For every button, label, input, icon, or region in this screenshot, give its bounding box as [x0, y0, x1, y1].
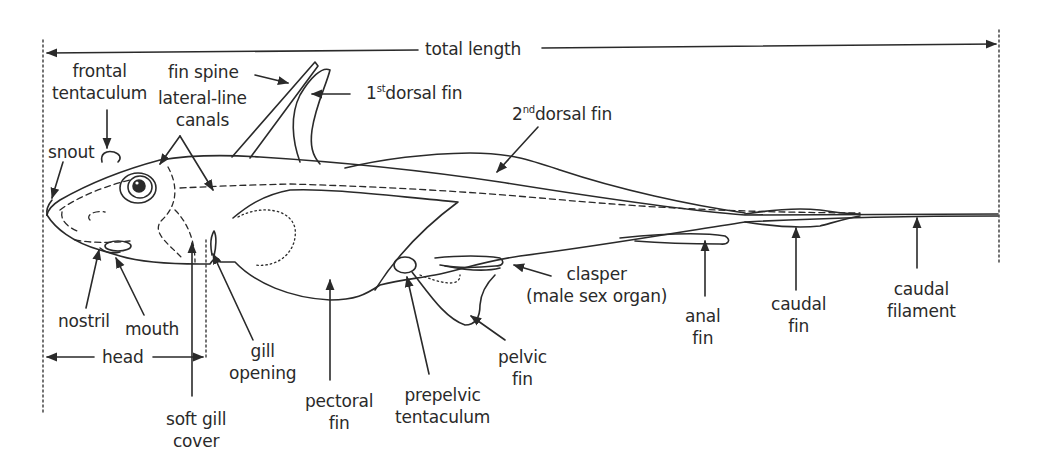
label-line: gill: [229, 340, 296, 362]
label-line: frontal: [52, 60, 147, 82]
fish-illustration: [0, 0, 1043, 470]
label-line: tentaculum: [52, 82, 147, 104]
ordinal-number: 1: [366, 83, 377, 103]
lateral-line-canals-label: lateral-line canals: [158, 87, 247, 131]
fin-spine-label: fin spine: [168, 61, 239, 83]
head-label: head: [102, 346, 144, 368]
ordinal-suffix: nd: [523, 104, 535, 115]
label-line: fin: [305, 412, 373, 434]
label-text: dorsal fin: [535, 104, 612, 124]
second-dorsal-fin-label: 2nddorsal fin: [512, 103, 612, 125]
pelvic-fin-label: pelvic fin: [498, 346, 547, 390]
label-line: opening: [229, 362, 296, 384]
ordinal-number: 2: [512, 104, 523, 124]
first-dorsal-fin-outline: [293, 69, 330, 164]
label-line: pelvic: [498, 346, 547, 368]
label-line: (male sex organ): [526, 285, 667, 307]
label-line: fin: [685, 327, 721, 349]
mouth-label: mouth: [125, 318, 179, 340]
clasper-label: clasper (male sex organ): [526, 263, 667, 307]
label-line: fin: [498, 368, 547, 390]
chimaera-anatomy-diagram: total length frontal tentaculum fin spin…: [0, 0, 1043, 470]
label-text: dorsal fin: [385, 83, 462, 103]
label-line: clasper: [526, 263, 667, 285]
frontal-tentaculum-label: frontal tentaculum: [52, 60, 147, 104]
prepelvic-tentaculum-label: prepelvic tentaculum: [395, 384, 490, 428]
label-line: soft gill: [166, 408, 226, 430]
snout-label: snout: [48, 141, 94, 163]
body-ventral-outline: [47, 215, 998, 300]
prepelvic-tentaculum-shape: [394, 257, 416, 273]
label-line: tentaculum: [395, 406, 490, 428]
label-line: pectoral: [305, 390, 373, 412]
anal-fin-label: anal fin: [685, 305, 721, 349]
label-line: caudal: [771, 293, 826, 315]
label-line: filament: [887, 300, 956, 322]
pectoral-fin-outline: [233, 190, 458, 290]
second-dorsal-fin-outline: [345, 153, 745, 213]
label-line: prepelvic: [395, 384, 490, 406]
caudal-fin-label: caudal fin: [771, 293, 826, 337]
label-line: caudal: [887, 278, 956, 300]
pectoral-fin-label: pectoral fin: [305, 390, 373, 434]
body-dorsal-outline: [47, 156, 998, 215]
gill-opening-label: gill opening: [229, 340, 296, 384]
label-line: fin: [771, 315, 826, 337]
pelvic-fin-outline: [412, 272, 495, 325]
first-dorsal-fin-label: 1stdorsal fin: [366, 82, 462, 104]
caudal-filament-label: caudal filament: [887, 278, 956, 322]
nostril-label: nostril: [58, 310, 110, 332]
label-line: cover: [166, 430, 226, 452]
total-length-label: total length: [425, 38, 521, 60]
label-line: lateral-line: [158, 87, 247, 109]
gill-opening-shape: [211, 231, 216, 256]
lateral-line: [60, 180, 860, 213]
pectoral-fin-base: [238, 210, 295, 265]
frontal-tentaculum-shape: [102, 151, 120, 162]
label-line: canals: [158, 109, 247, 131]
soft-gill-cover-label: soft gill cover: [166, 408, 226, 452]
label-line: anal: [685, 305, 721, 327]
eye: [120, 173, 156, 203]
total-length-arrow: [47, 44, 996, 53]
